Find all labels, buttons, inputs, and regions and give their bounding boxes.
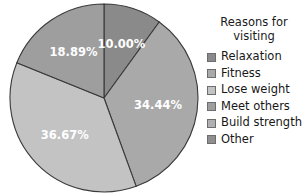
legend-item[interactable]: Fitness <box>205 66 307 82</box>
pie-plot-area: 10.00%34.44%36.67%18.89% <box>0 0 205 196</box>
legend-title-line-2: visiting <box>205 30 303 44</box>
legend-item[interactable]: Lose weight <box>205 82 307 98</box>
legend-item[interactable]: Other <box>205 132 307 148</box>
pie-slice-label: 36.67% <box>41 128 89 142</box>
legend-item-label: Build strength <box>221 117 302 129</box>
legend-color-swatch <box>207 69 216 78</box>
legend-item[interactable]: Meet others <box>205 99 307 115</box>
legend-item[interactable]: Relaxation <box>205 49 307 65</box>
pie-slice-label: 34.44% <box>134 98 182 112</box>
legend-items: RelaxationFitnessLose weightMeet othersB… <box>205 49 307 148</box>
legend-item-label: Meet others <box>221 101 290 113</box>
legend-color-swatch <box>207 119 216 128</box>
legend-item-label: Fitness <box>221 68 261 80</box>
legend-title: Reasons for visiting <box>205 16 303 43</box>
pie-svg: 10.00%34.44%36.67%18.89% <box>0 0 205 196</box>
legend-item-label: Other <box>221 134 254 146</box>
pie-chart-figure: 10.00%34.44%36.67%18.89% Reasons for vis… <box>0 0 307 196</box>
legend-item-label: Lose weight <box>221 84 290 96</box>
legend-color-swatch <box>207 102 216 111</box>
pie-slice-label: 10.00% <box>97 37 145 51</box>
legend-color-swatch <box>207 86 216 95</box>
legend-item-label: Relaxation <box>221 51 282 63</box>
legend-title-line-1: Reasons for <box>205 16 303 30</box>
legend-item[interactable]: Build strength <box>205 115 307 131</box>
pie-slice-label: 18.89% <box>50 45 98 59</box>
legend-color-swatch <box>207 135 216 144</box>
legend-color-swatch <box>207 53 216 62</box>
legend: Reasons for visiting RelaxationFitnessLo… <box>205 16 307 176</box>
